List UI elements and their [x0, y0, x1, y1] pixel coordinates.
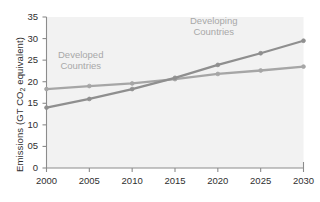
annotation-developing-line1: Developing — [190, 15, 238, 26]
series-marker-1 — [87, 84, 91, 88]
series-marker-1 — [130, 82, 134, 86]
emissions-line-chart: Emissions (GT CO2 equivalent) 0051015202… — [0, 0, 320, 202]
annotation-developed-line1: Developed — [58, 49, 103, 60]
series-marker-2 — [173, 76, 177, 80]
series-marker-2 — [45, 106, 49, 110]
annotation-developing-countries: Developing Countries — [190, 15, 238, 37]
series-marker-2 — [216, 63, 220, 67]
series-marker-1 — [216, 72, 220, 76]
plot-background — [47, 17, 304, 168]
series-marker-2 — [130, 87, 134, 91]
annotation-developed-countries: Developed Countries — [58, 49, 103, 71]
annotation-developing-line2: Countries — [190, 26, 238, 37]
series-marker-2 — [87, 97, 91, 101]
series-marker-2 — [259, 51, 263, 55]
series-marker-1 — [45, 87, 49, 91]
plot-background-group — [47, 17, 304, 168]
annotation-developed-line2: Countries — [58, 60, 103, 71]
series-marker-1 — [259, 69, 263, 73]
series-marker-2 — [302, 39, 306, 43]
plot-area — [0, 0, 320, 202]
series-marker-1 — [302, 65, 306, 69]
